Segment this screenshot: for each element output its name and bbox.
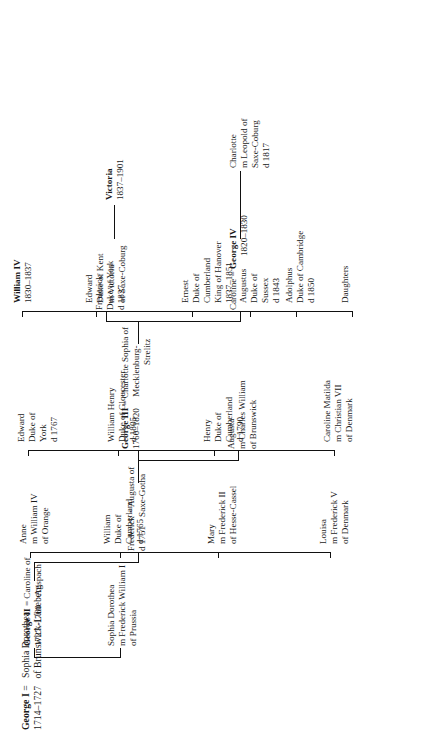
ernest-line1: Ernest (180, 241, 191, 303)
node-william-iv: William IV 1830–1837 (12, 259, 34, 303)
node-edward-duke-of-york: Edward Duke of York d 1767 (16, 412, 60, 442)
adolphus-line3: d 1850 (306, 231, 317, 303)
node-anne: Anne m William IV of Orange (18, 494, 51, 545)
edward-kent-line3: m Victoria (106, 245, 117, 303)
node-henry-duke-of-cumberland: Henry Duke of Cumberland d 1790 (202, 397, 246, 442)
augustus-line4: d 1843 (271, 269, 282, 303)
node-edward-duke-of-kent: Edward Duke of Kent m Victoria of Saxe-C… (84, 245, 128, 303)
mary-line1: Mary (206, 486, 217, 544)
william-cumberland-line4: d 1765 (135, 499, 146, 544)
connector-rail-william-iv (22, 311, 23, 317)
ernest-line2: Duke of (191, 241, 202, 303)
node-mary: Mary m Frederick II of Hesse-Cassel (206, 486, 239, 544)
connector-rail-anne (30, 552, 31, 558)
louisa-line2: m Frederick V (329, 491, 340, 544)
connector-george-i-to-georgeii (34, 648, 35, 658)
william-cumberland-line2: Duke of (113, 499, 124, 544)
ernest-line3: Cumberland (202, 241, 213, 303)
victoria-reign: 1837–1901 (115, 159, 126, 200)
node-louisa: Louisa m Frederick V of Denmark (318, 491, 351, 544)
charlotte-line4: d 1817 (261, 118, 272, 168)
edward-kent-line4: of Saxe-Coburg (117, 245, 128, 303)
edward-york-line3: York (38, 412, 49, 442)
william-henry-line3: d 1805 (128, 371, 139, 442)
connector-to-frederick-york (106, 312, 107, 322)
connector-rail-caroline-matilda (334, 450, 335, 456)
genealogy-chart: George I = Sophia Dorothea 1714–1727 of … (0, 0, 429, 736)
mary-line2: m Frederick II (217, 486, 228, 544)
henry-cumberland-line1: Henry (202, 397, 213, 442)
node-daughters: Daughters (340, 266, 351, 303)
connector-georgeiii-out (138, 322, 139, 344)
connector-rail-daughters (352, 311, 353, 317)
connector-georgeii-children-rail (30, 552, 330, 553)
william-henry-line1: William Henry (106, 371, 117, 442)
connector-frederick-spine (138, 460, 238, 461)
william-henry-line2: Duke of Gloucester (117, 371, 128, 442)
ernest-line4: King of Hanover (213, 241, 224, 303)
edward-kent-line2: Duke of Kent (95, 245, 106, 303)
node-augustus-duke-of-sussex: Augustus Duke of Sussex d 1843 (238, 269, 282, 303)
george-ii-equals: = (22, 601, 32, 606)
william-cumberland-line1: William (102, 499, 113, 544)
mary-line3: of Hesse-Cassel (228, 486, 239, 544)
connector-rail-edward-york (28, 450, 29, 456)
george-ii-name: George II (22, 608, 32, 646)
node-caroline-matilda: Caroline Matilda m Christian VII of Denm… (322, 380, 355, 442)
george-ii-spouse-line1: Caroline of (22, 557, 32, 598)
connector-georgeii-out (34, 563, 35, 581)
node-charlotte: Charlotte m Leopold of Saxe-Coburg d 181… (228, 118, 272, 168)
node-victoria: Victoria 1837–1901 (104, 159, 126, 200)
william-cumberland-line3: Cumberland (124, 499, 135, 544)
node-adolphus-duke-of-cambridge: Adolphus Duke of Cambridge d 1850 (284, 231, 317, 303)
connector-georgeii-spine (34, 562, 138, 563)
sophia-dorothea-line3: of Prussia (128, 565, 139, 646)
connector-george-i-spine (34, 657, 120, 658)
node-william-duke-of-cumberland: William Duke of Cumberland d 1765 (102, 499, 146, 544)
node-sophia-dorothea: Sophia Dorothea m Frederick William I of… (106, 565, 139, 646)
adolphus-line2: Duke of Cambridge (295, 231, 306, 303)
charlotte-line3: Saxe-Coburg (250, 118, 261, 168)
augustus-line1: Augustus (238, 269, 249, 303)
connector-georgeii-to-frederick (138, 553, 139, 563)
henry-cumberland-line3: Cumberland (224, 397, 235, 442)
george-i-reign: 1714–1727 (32, 686, 43, 730)
augustus-line2: Duke of (249, 269, 260, 303)
connector-rail-augustus (250, 311, 251, 317)
connector-frederick-to-augusta (238, 451, 239, 461)
caroline-matilda-line1: Caroline Matilda (322, 380, 333, 442)
sophia-dorothea-line2: m Frederick William I (117, 565, 128, 646)
daughters-label: Daughters (340, 266, 351, 303)
ernest-line5: 1837–1851 (224, 241, 235, 303)
henry-cumberland-line4: d 1790 (235, 397, 246, 442)
connector-rail-william-henry (118, 450, 119, 456)
henry-cumberland-line2: Duke of (213, 397, 224, 442)
connector-rail-edward-kent (96, 311, 97, 317)
connector-georgeiii-children-rail (22, 311, 352, 312)
connector-rail-adolphus (296, 311, 297, 317)
george-i-equals: = (20, 685, 31, 691)
george-ii-reign: 1727–1760 (33, 605, 43, 646)
connector-rail-william-cumberland (120, 552, 121, 558)
augusta-line3: of Brunswick (248, 380, 259, 449)
george-iii-spouse-line3: Strelitz (142, 327, 153, 449)
adolphus-line1: Adolphus (284, 231, 295, 303)
connector-rail-ernest (192, 311, 193, 317)
caroline-matilda-line2: m Christian VII (333, 380, 344, 442)
connector-georgeiv-to-charlotte (240, 171, 241, 239)
edward-kent-line1: Edward (84, 245, 95, 303)
charlotte-line1: Charlotte (228, 118, 239, 168)
george-i-name: George I (20, 693, 31, 730)
edward-york-line1: Edward (16, 412, 27, 442)
caroline-matilda-line3: of Denmark (344, 380, 355, 442)
louisa-line1: Louisa (318, 491, 329, 544)
connector-rail-mary (218, 552, 219, 558)
william-iv-name: William IV (12, 259, 23, 303)
connector-georgeiii-siblings-rail (28, 450, 334, 451)
node-william-henry-gloucester: William Henry Duke of Gloucester d 1805 (106, 371, 139, 442)
connector-frederick-to-georgeiii (138, 451, 139, 461)
charlotte-line2: m Leopold of (239, 118, 250, 168)
sophia-dorothea-line1: Sophia Dorothea (106, 565, 117, 646)
node-ernest-duke-of-cumberland: Ernest Duke of Cumberland King of Hanove… (180, 241, 235, 303)
connector-kent-to-victoria (114, 205, 115, 239)
